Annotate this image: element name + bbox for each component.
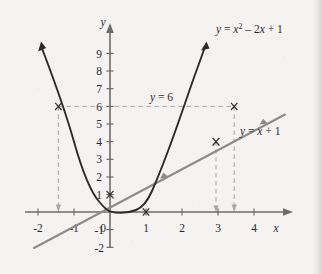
x-axis-label: x — [272, 222, 279, 234]
y-tick-label: 3 — [96, 153, 102, 165]
parabola-label-tail: + 1 — [265, 23, 283, 35]
parabola-label: y = x2 – 2x + 1 — [215, 22, 283, 36]
horizontal-line-label: y = 6 — [149, 91, 173, 104]
horizontal-line-label-eq: = 6 — [155, 91, 173, 103]
line-label-eq: = — [245, 125, 257, 137]
x-tick-label: 4 — [251, 222, 257, 234]
line-label-tail: + 1 — [262, 125, 280, 137]
y-tick-label: 6 — [96, 101, 102, 113]
x-tick-label: 1 — [143, 222, 149, 234]
x-tick-label: -2 — [33, 222, 43, 234]
graph-figure: -2 -1 0 1 2 3 4 9 8 7 6 5 4 3 2 1 -1 -2 … — [0, 0, 322, 274]
line-label: y = x + 1 — [239, 125, 281, 138]
x-tick-label: 2 — [179, 222, 185, 234]
parabola-label-eq: = — [221, 23, 233, 35]
y-tick-label: 9 — [96, 48, 102, 60]
parabola-label-rest: – 2 — [242, 23, 260, 35]
y-axis-label: y — [99, 16, 106, 29]
y-tick-label: 5 — [96, 118, 102, 130]
coordinate-plane: -2 -1 0 1 2 3 4 9 8 7 6 5 4 3 2 1 -1 -2 … — [0, 0, 322, 274]
y-tick-label: 2 — [96, 171, 102, 183]
y-tick-label: 4 — [96, 136, 102, 148]
y-tick-label: -2 — [94, 242, 104, 254]
x-tick-label: 3 — [215, 222, 221, 234]
y-tick-label: -1 — [94, 224, 104, 236]
y-tick-label: 7 — [96, 83, 102, 95]
y-tick-label: 8 — [96, 65, 102, 77]
